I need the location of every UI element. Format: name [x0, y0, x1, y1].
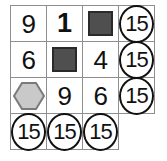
corner-blank: [118, 113, 155, 150]
sum-circle-icon: 15: [47, 113, 82, 151]
sum-circle-icon: 15: [11, 113, 46, 151]
sum-circle-icon: 15: [119, 5, 154, 43]
square-tile-icon: [52, 47, 77, 72]
digit-value: 6: [22, 47, 36, 73]
cell-r2c1[interactable]: 6: [10, 41, 47, 78]
digit-value: 4: [94, 47, 108, 73]
col-sum-2[interactable]: 15: [46, 113, 83, 150]
row-sum-1[interactable]: 15: [118, 5, 155, 42]
grid-row: 9 6 15: [10, 77, 154, 113]
sum-value: 15: [125, 49, 147, 71]
cell-r3c2[interactable]: 9: [46, 77, 83, 114]
col-sum-3[interactable]: 15: [82, 113, 119, 150]
sum-value: 15: [125, 85, 147, 107]
cell-r2c2[interactable]: [46, 41, 83, 78]
sum-value: 15: [53, 121, 75, 143]
cell-r1c3[interactable]: [82, 5, 119, 42]
sum-circle-icon: 15: [119, 41, 154, 79]
digit-value: 1: [57, 10, 72, 37]
row-sum-2[interactable]: 15: [118, 41, 155, 78]
digit-value: 9: [58, 83, 72, 109]
digit-value: 6: [94, 83, 108, 109]
grid-row: 9 1 15: [10, 5, 154, 41]
sum-circle-icon: 15: [119, 77, 154, 115]
row-sum-3[interactable]: 15: [118, 77, 155, 114]
sum-value: 15: [89, 121, 111, 143]
grid-row: 15 15 15: [10, 113, 154, 149]
hexagon-tile-icon: [13, 82, 45, 110]
cell-r1c1[interactable]: 9: [10, 5, 47, 42]
sum-value: 15: [125, 13, 147, 35]
cell-r3c1[interactable]: [10, 77, 47, 114]
puzzle-grid: 9 1 15 6 4: [10, 5, 154, 149]
cell-r3c3[interactable]: 6: [82, 77, 119, 114]
col-sum-1[interactable]: 15: [10, 113, 47, 150]
cell-r2c3[interactable]: 4: [82, 41, 119, 78]
digit-value: 9: [22, 11, 36, 37]
cell-r1c2[interactable]: 1: [46, 5, 83, 42]
sum-circle-icon: 15: [83, 113, 118, 151]
puzzle-root: 9 1 15 6 4: [0, 0, 167, 161]
sum-value: 15: [17, 121, 39, 143]
grid-row: 6 4 15: [10, 41, 154, 77]
square-tile-icon: [88, 11, 113, 36]
